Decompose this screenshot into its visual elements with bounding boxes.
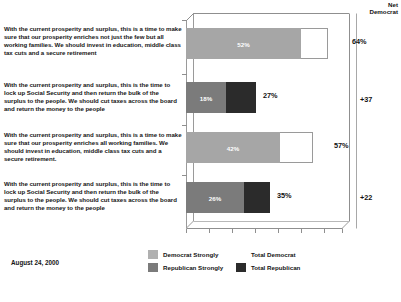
bar-total-republican-2 xyxy=(226,82,256,113)
bar-row-1: 52% 64% xyxy=(0,22,401,60)
legend-item-democrat-strongly: Democrat Strongly xyxy=(148,249,218,260)
bar-strong-value-2: 18% xyxy=(200,94,212,101)
bar-strong-value-1: 52% xyxy=(237,40,249,47)
legend-item-republican-strongly: Republican Strongly xyxy=(148,262,223,273)
net-democrat-header-line1: Net xyxy=(338,1,398,8)
net-democrat-header-line2: Democrat xyxy=(338,8,398,15)
bar-row-4: 26% 35% xyxy=(0,176,401,214)
legend-item-total-democrat: Total Democrat xyxy=(236,249,296,260)
net-democrat-value-1: +37 xyxy=(360,95,372,104)
legend-swatch-republican-strongly xyxy=(148,263,158,272)
bar-group-2: 18% xyxy=(186,82,256,113)
legend-swatch-total-republican xyxy=(236,263,246,272)
bar-group-1: 52% xyxy=(186,28,346,59)
bar-strong-democrat-3: 42% xyxy=(186,132,280,163)
bar-strong-democrat-1: 52% xyxy=(186,28,301,59)
legend-label-democrat-strongly: Democrat Strongly xyxy=(163,251,218,258)
bar-strong-republican-4: 26% xyxy=(186,182,244,213)
bar-total-republican-4 xyxy=(244,182,270,213)
legend-item-total-republican: Total Republican xyxy=(236,262,300,273)
bar-group-3: 42% xyxy=(186,132,328,163)
bar-strong-republican-2: 18% xyxy=(186,82,226,113)
bar-total-value-1: 64% xyxy=(352,37,367,46)
legend-row-2: Republican Strongly Total Republican xyxy=(148,262,348,273)
net-democrat-header: Net Democrat xyxy=(338,1,398,16)
bar-strong-value-4: 26% xyxy=(209,194,221,201)
legend-label-total-democrat: Total Democrat xyxy=(251,251,296,258)
legend-label-republican-strongly: Republican Strongly xyxy=(163,264,223,271)
legend-swatch-democrat-strongly xyxy=(148,250,158,259)
bar-total-value-4: 35% xyxy=(277,191,292,200)
bar-total-value-3: 57% xyxy=(334,141,349,150)
poll-bar-chart: With the current prosperity and surplus,… xyxy=(0,0,401,302)
bar-strong-value-3: 42% xyxy=(227,144,239,151)
chart-date-label: August 24, 2000 xyxy=(11,259,59,266)
net-democrat-value-2: +22 xyxy=(360,193,372,202)
legend-label-total-republican: Total Republican xyxy=(251,264,300,271)
bar-group-4: 26% xyxy=(186,182,270,213)
legend-swatch-total-democrat xyxy=(236,250,246,259)
legend-row-1: Democrat Strongly Total Democrat xyxy=(148,249,348,260)
bar-row-2: 18% 27% xyxy=(0,76,401,114)
bar-total-value-2: 27% xyxy=(263,91,278,100)
bar-row-3: 42% 57% xyxy=(0,126,401,164)
